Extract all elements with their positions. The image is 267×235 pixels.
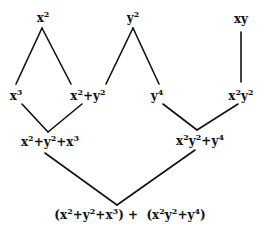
node-total: (x2+y2+x3) + (x2y2+y4) <box>54 209 205 221</box>
edge-sumLeft-to-total <box>45 153 117 205</box>
node-sumLeft: x2+y2+x3 <box>21 136 79 148</box>
node-xy: xy <box>234 13 248 25</box>
diagram-canvas: x2y2xyx3x2+y2y4x2y2x2+y2+x3x2y2+y4(x2+y2… <box>0 0 267 235</box>
node-x3: x3 <box>10 90 23 102</box>
edge-y2-to-x2py2 <box>106 28 133 84</box>
edge-y4-to-sumRight <box>163 104 197 130</box>
edge-x2py2-to-sumLeft <box>48 104 82 132</box>
diagram-edges <box>0 0 267 235</box>
edge-y2-to-y4 <box>133 28 159 84</box>
edge-x3-to-sumLeft <box>22 104 48 132</box>
edge-sumRight-to-total <box>117 150 195 205</box>
node-x2py2: x2+y2 <box>70 90 105 102</box>
node-sumRight: x2y2+y4 <box>176 135 224 147</box>
node-y4: y4 <box>151 90 164 102</box>
node-x2: x2 <box>37 12 50 24</box>
node-x2y2: x2y2 <box>228 90 253 102</box>
node-y2: y2 <box>127 12 140 24</box>
edge-x2y2-to-sumRight <box>197 104 238 130</box>
edge-x2-to-x2py2 <box>42 28 71 84</box>
edge-x2-to-x3 <box>16 28 42 84</box>
